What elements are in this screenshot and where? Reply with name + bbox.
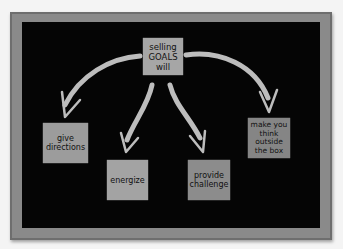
note-line: provide	[190, 171, 229, 180]
arrow-to-think-outside-box-icon	[186, 54, 277, 112]
note-line: directions	[46, 143, 85, 152]
arrow-to-give-directions-icon	[62, 56, 140, 117]
note-line: energize	[110, 176, 144, 185]
note-energize: energize	[107, 160, 148, 200]
center-note-selling-goals: selling GOALS will	[143, 38, 183, 75]
note-provide-challenge: provide challenge	[188, 160, 230, 200]
arrow-to-energize-icon	[121, 85, 152, 152]
note-think-outside-box: make you think outside the box	[248, 118, 290, 158]
note-line: give	[46, 134, 85, 143]
center-note-line: selling	[148, 42, 177, 52]
arrow-to-provide-challenge-icon	[170, 85, 205, 152]
note-give-directions: give directions	[43, 123, 88, 163]
note-line: the box	[251, 147, 288, 156]
center-note-line: will	[148, 62, 177, 72]
center-note-line: GOALS	[148, 52, 177, 62]
note-line: challenge	[190, 180, 229, 189]
